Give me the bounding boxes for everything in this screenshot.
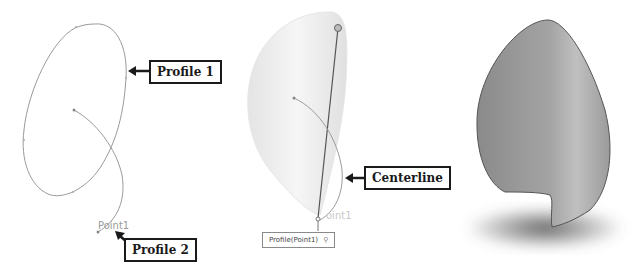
spline-start-point-icon (293, 97, 296, 100)
spline-start-point-icon (73, 109, 76, 112)
profile-point-tag[interactable]: Profile(Point1) ⚲ (262, 232, 335, 248)
callout-profile-1: Profile 1 (149, 60, 222, 84)
profile-point-tag-label: Profile(Point1) (269, 236, 318, 244)
control-point-icon (72, 191, 74, 193)
result-drawing (450, 0, 638, 277)
result-panel (450, 0, 638, 277)
arrow-left-icon (345, 173, 353, 183)
control-point-icon (23, 139, 25, 141)
loft-solid (477, 20, 610, 227)
arrow-left-icon (128, 66, 136, 76)
centerline-endpoint-icon (335, 25, 342, 32)
point1-label: oint1 (326, 210, 352, 221)
callout-centerline: Centerline (364, 166, 451, 190)
control-point-icon (125, 77, 127, 79)
control-point-icon (75, 26, 77, 28)
sketch-panel: Profile 1 Profile 2 Point1 (0, 0, 220, 277)
sketch-drawing (0, 0, 220, 277)
profile-2-curve (74, 110, 123, 232)
pin-icon: ⚲ (323, 236, 328, 244)
point1-label: Point1 (98, 220, 129, 231)
drop-shadow (465, 206, 625, 250)
loft-surface (248, 12, 347, 215)
callout-profile-2: Profile 2 (124, 238, 197, 262)
preview-panel: oint1 Profile(Point1) ⚲ Centerline (220, 0, 450, 277)
point1-icon (316, 217, 320, 221)
